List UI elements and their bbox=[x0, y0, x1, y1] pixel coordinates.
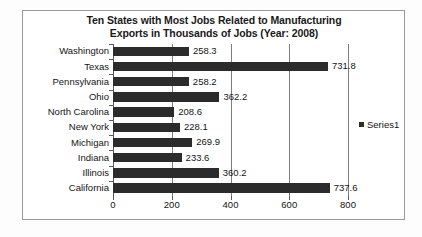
chart-page: Ten States with Most Jobs Related to Man… bbox=[0, 0, 422, 237]
y-axis-category-label: Indiana bbox=[3, 152, 109, 163]
y-axis-category-label: California bbox=[3, 182, 109, 193]
chart-title: Ten States with Most Jobs Related to Man… bbox=[30, 14, 398, 40]
y-axis-category-label: Texas bbox=[3, 61, 109, 72]
y-axis-category-label: New York bbox=[3, 121, 109, 132]
x-axis-tick-label: 200 bbox=[164, 199, 180, 210]
plot-area: 258.3731.8258.2362.2208.6228.1269.9233.6… bbox=[113, 44, 348, 196]
bar-row: 228.1 bbox=[113, 120, 348, 135]
y-axis-category-label: North Carolina bbox=[3, 106, 109, 117]
bar-row: 258.3 bbox=[113, 44, 348, 59]
x-axis-tick-labels: 0200400600800 bbox=[0, 199, 420, 215]
bar-row: 258.2 bbox=[113, 74, 348, 89]
bar-row: 731.8 bbox=[113, 59, 348, 74]
bar-row: 269.9 bbox=[113, 135, 348, 150]
x-axis-tick-label: 600 bbox=[281, 199, 297, 210]
bar-value-label: 258.3 bbox=[193, 45, 217, 56]
bar bbox=[113, 168, 219, 177]
bar bbox=[113, 183, 330, 192]
chart-legend: Series1 bbox=[359, 119, 399, 130]
bar-value-label: 737.6 bbox=[334, 182, 358, 193]
bar-row: 360.2 bbox=[113, 166, 348, 181]
x-axis-tick-label: 800 bbox=[340, 199, 356, 210]
bar bbox=[113, 47, 189, 56]
bar-value-label: 269.9 bbox=[196, 136, 220, 147]
bar-value-label: 228.1 bbox=[184, 121, 208, 132]
y-axis-category-label: Michigan bbox=[3, 137, 109, 148]
y-axis-category-labels: WashingtonTexasPennsylvaniaOhioNorth Car… bbox=[1, 44, 109, 196]
bar-value-label: 258.2 bbox=[193, 76, 217, 87]
x-axis-tick-label: 400 bbox=[223, 199, 239, 210]
x-axis-tick-label: 0 bbox=[110, 199, 115, 210]
bar bbox=[113, 138, 192, 147]
chart-title-line-2: Exports in Thousands of Jobs (Year: 2008… bbox=[30, 27, 398, 40]
bar-row: 208.6 bbox=[113, 105, 348, 120]
bar bbox=[113, 107, 174, 116]
legend-label-series1: Series1 bbox=[367, 119, 399, 130]
y-axis-category-label: Ohio bbox=[3, 91, 109, 102]
bar-row: 737.6 bbox=[113, 181, 348, 196]
bar-value-label: 362.2 bbox=[223, 91, 247, 102]
bar-row: 362.2 bbox=[113, 90, 348, 105]
bar-value-label: 731.8 bbox=[332, 60, 356, 71]
bar bbox=[113, 77, 189, 86]
bar-row: 233.6 bbox=[113, 150, 348, 165]
bar-value-label: 208.6 bbox=[178, 106, 202, 117]
y-axis-category-label: Washington bbox=[3, 45, 109, 56]
chart-title-line-1: Ten States with Most Jobs Related to Man… bbox=[30, 14, 398, 27]
bar-value-label: 360.2 bbox=[223, 167, 247, 178]
bar bbox=[113, 153, 182, 162]
bar bbox=[113, 123, 180, 132]
legend-marker-series1 bbox=[359, 122, 364, 127]
bar-value-label: 233.6 bbox=[186, 152, 210, 163]
y-axis-category-label: Illinois bbox=[3, 167, 109, 178]
bar bbox=[113, 92, 219, 101]
bar bbox=[113, 62, 328, 71]
y-axis-category-label: Pennsylvania bbox=[3, 76, 109, 87]
